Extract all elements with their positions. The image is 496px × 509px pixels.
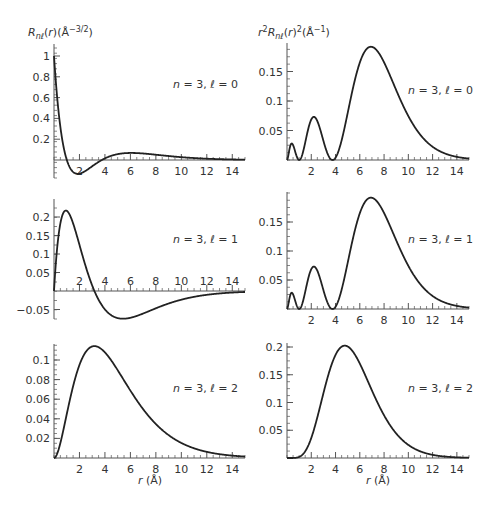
x-tick-label: 4 [101,463,108,476]
x-tick-label: 8 [381,314,388,327]
x-tick-label: 12 [200,463,214,476]
x-tick-label: 10 [401,314,415,327]
x-tick-label: 2 [308,165,315,178]
x-tick-label: 6 [127,463,134,476]
panel-P32: 0.050.10.150.22468101214n = 3, ℓ = 2 [259,341,473,476]
x-tick-label: 2 [76,463,83,476]
panel-label: n = 3, ℓ = 1 [408,233,473,246]
y-tick-label: 0.1 [266,95,284,108]
curve-P31 [287,198,469,309]
x-tick-label: 2 [308,463,315,476]
x-tick-label: 8 [152,275,159,288]
x-tick-label: 10 [174,165,188,178]
x-tick-label: 14 [450,463,464,476]
curve-P32 [287,346,469,458]
y-tick-label: 0.05 [259,274,284,287]
y-tick-label: 0.06 [26,393,51,406]
x-tick-label: 12 [200,275,214,288]
curve-R30 [54,56,245,174]
panel-label: n = 3, ℓ = 1 [173,233,238,246]
x-tick-label: 10 [174,275,188,288]
x-tick-label: 2 [76,275,83,288]
panel-R30: 0.20.40.60.812468101214n = 3, ℓ = 0 [33,44,246,178]
x-tick-label: 6 [127,165,134,178]
left-x-axis-title: r (Å) [138,474,162,487]
x-tick-label: 4 [332,463,339,476]
y-tick-label: 0.05 [259,125,284,138]
x-tick-label: 6 [356,165,363,178]
panel-R31: −0.050.050.10.150.22468101214n = 3, ℓ = … [16,199,245,319]
x-tick-label: 12 [426,165,440,178]
x-tick-label: 10 [174,463,188,476]
curve-R31 [54,211,245,319]
x-tick-label: 10 [401,165,415,178]
x-tick-label: 12 [426,314,440,327]
y-tick-label: 0.6 [33,92,51,105]
y-tick-label: 0.1 [33,354,51,367]
y-tick-label: 0.4 [33,112,51,125]
y-tick-label: 0.2 [266,341,284,354]
y-tick-label: 0.15 [26,230,51,243]
y-tick-label: 0.15 [259,216,284,229]
x-tick-label: 8 [152,165,159,178]
y-tick-label: 0.2 [33,211,51,224]
x-tick-label: 2 [76,165,83,178]
y-tick-label: −0.05 [16,304,50,317]
panel-label: n = 3, ℓ = 0 [408,84,473,97]
y-tick-label: 0.1 [266,245,284,258]
y-tick-label: 0.04 [26,413,51,426]
panel-P31: 0.050.10.152468101214n = 3, ℓ = 1 [259,192,473,327]
x-tick-label: 4 [101,275,108,288]
x-tick-label: 14 [225,463,239,476]
curve-P30 [287,47,469,160]
x-tick-label: 6 [127,275,134,288]
x-tick-label: 14 [225,275,239,288]
panel-P30: 0.050.10.152468101214n = 3, ℓ = 0 [259,43,473,178]
panel-label: n = 3, ℓ = 0 [173,78,238,91]
x-tick-label: 4 [332,314,339,327]
y-tick-label: 0.1 [33,248,51,261]
y-tick-label: 0.08 [26,374,51,387]
panel-label: n = 3, ℓ = 2 [173,382,238,395]
y-tick-label: 0.15 [259,66,284,79]
x-tick-label: 14 [450,314,464,327]
y-tick-label: 0.15 [259,369,284,382]
y-tick-label: 0.05 [259,424,284,437]
x-tick-label: 14 [225,165,239,178]
right-column-y-axis-title: r2Rnℓ(r)2(Å−1) [258,25,330,41]
figure-caption-partial [140,500,440,502]
curve-R32 [54,346,245,458]
panel-label: n = 3, ℓ = 2 [408,382,473,395]
x-tick-label: 4 [101,165,108,178]
x-tick-label: 6 [356,463,363,476]
x-tick-label: 6 [356,314,363,327]
y-tick-label: 1 [43,50,50,63]
x-tick-label: 2 [308,314,315,327]
x-tick-label: 8 [381,165,388,178]
x-tick-label: 14 [450,165,464,178]
y-tick-label: 0.02 [26,432,51,445]
y-tick-label: 0.05 [26,267,51,280]
y-tick-label: 0.8 [33,71,51,84]
radial-wavefunction-figure: 0.20.40.60.812468101214n = 3, ℓ = 00.050… [0,0,496,509]
panel-R32: 0.020.040.060.080.12468101214n = 3, ℓ = … [26,344,246,476]
right-x-axis-title: r (Å) [366,474,390,487]
y-tick-label: 0.2 [33,133,51,146]
x-tick-label: 12 [426,463,440,476]
x-tick-label: 12 [200,165,214,178]
plot-panels: 0.20.40.60.812468101214n = 3, ℓ = 00.050… [16,43,473,476]
y-tick-label: 0.1 [266,397,284,410]
x-tick-label: 10 [401,463,415,476]
x-tick-label: 4 [332,165,339,178]
left-column-y-axis-title: Rnℓ(r)(Å−3/2) [28,25,93,41]
